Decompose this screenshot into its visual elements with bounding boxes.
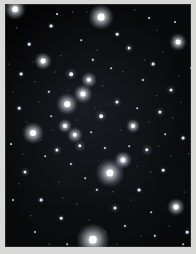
star-glow — [46, 89, 52, 95]
star — [18, 183, 19, 184]
star — [20, 73, 23, 76]
star — [162, 51, 163, 52]
star-glow — [140, 77, 146, 83]
star-glow — [90, 57, 96, 63]
star — [87, 78, 91, 82]
star-glow — [135, 186, 143, 194]
star — [69, 72, 73, 76]
star — [152, 63, 155, 66]
star-glow — [124, 43, 134, 53]
star — [116, 101, 119, 104]
star-glow — [15, 104, 23, 112]
star — [72, 11, 73, 12]
star — [172, 117, 173, 118]
star — [38, 101, 39, 102]
star — [174, 21, 176, 23]
star — [104, 231, 105, 232]
star-glow — [94, 187, 100, 193]
star — [78, 144, 81, 147]
star — [56, 13, 58, 15]
star — [63, 198, 64, 199]
star — [63, 124, 67, 128]
star — [22, 153, 23, 154]
star — [134, 9, 135, 10]
star — [120, 129, 121, 130]
star — [69, 90, 70, 91]
star — [10, 143, 12, 145]
star-glow — [67, 127, 83, 143]
star — [98, 14, 105, 21]
star — [109, 104, 110, 105]
star — [16, 27, 17, 28]
star — [40, 199, 43, 202]
star — [106, 169, 113, 176]
star-glow — [56, 93, 78, 115]
star — [171, 156, 172, 157]
star-glow — [95, 158, 125, 188]
star-glow — [155, 107, 165, 117]
star — [138, 189, 141, 192]
star-glow — [47, 22, 55, 30]
star — [182, 137, 185, 140]
star — [137, 166, 138, 167]
star-glow — [102, 145, 108, 151]
star — [54, 71, 55, 72]
star — [50, 115, 52, 117]
star — [96, 189, 98, 191]
star-glow — [167, 198, 185, 216]
star-glow — [169, 33, 187, 51]
star — [50, 25, 53, 28]
star-glow — [76, 223, 110, 247]
star — [76, 203, 77, 204]
star — [117, 244, 118, 245]
star — [80, 39, 82, 41]
star — [41, 140, 42, 141]
star — [60, 217, 63, 220]
star — [113, 206, 116, 209]
star — [84, 177, 86, 179]
star — [144, 59, 145, 60]
star — [188, 153, 189, 154]
star — [99, 114, 103, 118]
star-glow — [57, 214, 65, 222]
star — [170, 89, 173, 92]
star-glow — [152, 233, 158, 239]
star — [87, 12, 88, 13]
star — [53, 130, 54, 131]
star — [60, 55, 61, 56]
star — [26, 121, 27, 122]
star — [181, 102, 182, 103]
star-glow — [114, 151, 132, 169]
image-inner-edge — [5, 4, 191, 247]
star — [178, 75, 179, 76]
star-glow — [166, 85, 176, 95]
star-glow — [17, 70, 25, 78]
star — [110, 67, 112, 69]
star — [190, 67, 191, 69]
star-glow — [113, 30, 121, 38]
star — [73, 133, 77, 137]
star — [184, 191, 185, 192]
star-glow — [149, 60, 157, 68]
star-glow — [141, 144, 153, 156]
star — [182, 243, 184, 245]
star — [44, 155, 46, 157]
star — [186, 231, 189, 234]
photo-frame — [0, 0, 196, 254]
star-field-image — [5, 4, 191, 247]
star — [140, 235, 141, 236]
star — [154, 235, 156, 237]
star — [28, 43, 31, 46]
star — [142, 79, 144, 81]
star — [66, 243, 68, 245]
star-glow — [22, 122, 44, 144]
star — [122, 71, 123, 72]
star-glow — [65, 68, 77, 80]
star — [95, 108, 96, 109]
star-glow — [179, 134, 187, 142]
star — [34, 231, 36, 233]
star — [64, 101, 70, 107]
star-glow — [52, 145, 62, 155]
star — [128, 145, 130, 147]
star-glow — [159, 166, 167, 174]
